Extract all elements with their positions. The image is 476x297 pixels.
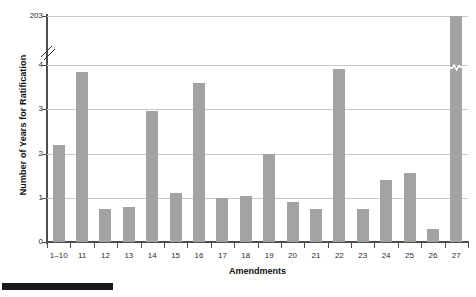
bar (357, 209, 369, 242)
x-tick-label: 1–10 (47, 251, 70, 261)
bar (146, 111, 158, 242)
bar (76, 72, 88, 242)
x-tick-mark (164, 243, 165, 248)
x-tick-label: 18 (234, 251, 257, 261)
x-tick-mark (398, 243, 399, 248)
y-tick-label: 1 (3, 194, 43, 202)
x-tick-mark (445, 243, 446, 248)
y-tick-label: 203 (3, 12, 43, 20)
bar-break-icon (450, 57, 462, 64)
footer-rule (2, 283, 113, 290)
x-tick-label: 15 (164, 251, 187, 261)
x-tick-label: 21 (304, 251, 327, 261)
x-tick-mark (468, 243, 469, 248)
y-tick-label: 0 (3, 238, 43, 246)
bar (263, 154, 275, 243)
x-tick-mark (328, 243, 329, 248)
x-tick-label: 22 (328, 251, 351, 261)
x-tick-label: 24 (374, 251, 397, 261)
x-tick-label: 16 (187, 251, 210, 261)
x-tick-mark (187, 243, 188, 248)
x-axis-tick-labels: 1–101112131415161718192021222324252627 (47, 251, 468, 265)
x-tick-label: 27 (445, 251, 468, 261)
x-tick-mark (94, 243, 95, 248)
bar-series (47, 16, 468, 242)
y-tick-label: 4 (3, 61, 43, 69)
bar (193, 83, 205, 242)
y-tick-mark (42, 242, 47, 243)
y-tick-label: 3 (3, 105, 43, 113)
bar (404, 173, 416, 242)
x-tick-mark (351, 243, 352, 248)
bar (216, 198, 228, 242)
x-tick-mark (141, 243, 142, 248)
plot-area (47, 16, 468, 242)
x-tick-mark (258, 243, 259, 248)
bar (123, 207, 135, 242)
x-tick-label: 19 (258, 251, 281, 261)
x-tick-label: 26 (421, 251, 444, 261)
x-tick-label: 17 (211, 251, 234, 261)
bar (427, 229, 439, 242)
x-tick-label: 11 (70, 251, 93, 261)
x-tick-mark (374, 243, 375, 248)
x-axis-ticks (47, 243, 468, 251)
bar (170, 193, 182, 242)
y-tick-mark (42, 109, 47, 110)
x-tick-label: 20 (281, 251, 304, 261)
y-tick-mark (42, 154, 47, 155)
x-tick-mark (421, 243, 422, 248)
bar (287, 202, 299, 242)
x-tick-mark (304, 243, 305, 248)
bar (53, 145, 65, 242)
x-axis-title: Amendments (47, 266, 468, 276)
bar (310, 209, 322, 242)
bar (380, 180, 392, 242)
bar (450, 16, 462, 242)
bar-chart-figure: Number of Years for Ratification 0123420… (0, 0, 476, 297)
y-axis-tick-labels: 01234203 (0, 0, 43, 297)
y-tick-mark (42, 16, 47, 17)
x-tick-mark (117, 243, 118, 248)
x-tick-label: 14 (141, 251, 164, 261)
x-tick-mark (281, 243, 282, 248)
y-tick-label: 2 (3, 150, 43, 158)
x-tick-mark (211, 243, 212, 248)
x-tick-label: 13 (117, 251, 140, 261)
y-tick-mark (42, 65, 47, 66)
x-tick-label: 12 (94, 251, 117, 261)
x-tick-mark (234, 243, 235, 248)
bar (240, 196, 252, 242)
x-tick-label: 23 (351, 251, 374, 261)
x-tick-mark (47, 243, 48, 248)
bar (99, 209, 111, 242)
bar (333, 69, 345, 242)
x-tick-label: 25 (398, 251, 421, 261)
y-tick-mark (42, 198, 47, 199)
x-tick-mark (70, 243, 71, 248)
